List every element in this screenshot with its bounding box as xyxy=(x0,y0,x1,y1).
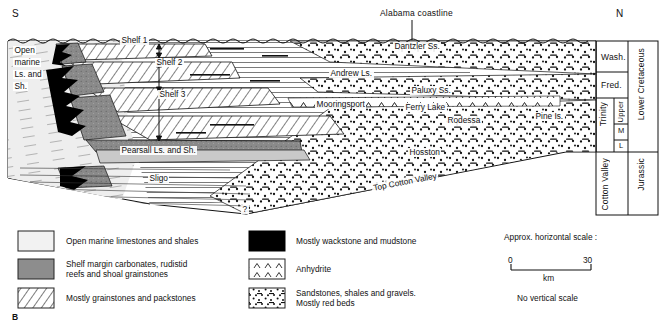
formation-label-dantzler: Dantzler Ss. xyxy=(393,42,441,51)
formation-label-rodessa: Rodessa xyxy=(446,116,482,125)
strat-unit-upper: Upper xyxy=(616,101,625,122)
query-mark: ? xyxy=(241,205,249,214)
open-marine-line-3: Ls. and xyxy=(13,70,43,79)
scale-min: 0 xyxy=(508,255,513,265)
legend-label-open-marine: Open marine limestones and shales xyxy=(66,236,198,246)
open-marine-line-1: Open xyxy=(13,46,36,55)
orientation-south: S xyxy=(12,8,19,19)
scale-unit: km xyxy=(543,273,554,283)
strat-unit-fred: Fred. xyxy=(601,80,622,90)
strat-system-jurassic: Jurassic xyxy=(636,158,646,191)
scale-note: No vertical scale xyxy=(517,293,578,303)
legend-swatch-shelf-margin xyxy=(18,259,54,279)
strat-unit-m: M xyxy=(618,126,624,135)
coastline-label: Alabama coastline xyxy=(380,8,453,18)
legend-label-shelf-margin: Shelf margin carbonates, rudistid reefs … xyxy=(66,259,187,279)
strat-unit-trinity: Trinity xyxy=(598,102,608,126)
formation-label-sligo: Sligo xyxy=(148,174,169,183)
formation-label-pearsall: Pearsall Ls. and Sh. xyxy=(120,146,197,155)
scale-title: Approx. horizontal scale : xyxy=(504,232,597,242)
legend-label-wackstone: Mostly wackstone and mudstone xyxy=(296,236,416,246)
legend-label-sandstone: Sandstones, shales and gravels. Mostly r… xyxy=(296,288,416,308)
open-marine-line-2: marine xyxy=(13,58,41,67)
formation-label-andrew: Andrew Ls. xyxy=(329,69,374,78)
legend-swatch-open-marine xyxy=(18,231,54,251)
legend-swatch-wackstone xyxy=(249,231,285,251)
strat-system-lower-cretaceous: Lower Cretaceous xyxy=(636,48,646,120)
legend-swatch-grainstone xyxy=(18,288,54,308)
shelf-label-1: Shelf 1 xyxy=(120,36,149,45)
legend-swatch-anhydrite xyxy=(249,259,285,279)
formation-label-ferry-lake: Ferry Lake xyxy=(404,103,447,112)
legend-swatch-sandstone xyxy=(249,288,285,308)
strat-unit-l: L xyxy=(619,141,623,150)
scale-bar xyxy=(511,264,591,270)
cross-section-diagram xyxy=(0,0,667,329)
scale-max: 30 xyxy=(583,255,592,265)
open-marine-line-4: Sh. xyxy=(13,82,28,91)
orientation-north: N xyxy=(616,8,623,19)
formation-label-hosston: Hosston xyxy=(408,148,441,157)
shelf-label-3: Shelf 3 xyxy=(158,90,187,99)
formation-label-mooringsport: Mooringsport xyxy=(315,100,366,109)
formation-label-paluxy: Paluxy Ss. xyxy=(410,86,452,95)
strat-unit-wash: Wash. xyxy=(601,52,626,62)
legend-label-anhydrite: Anhydrite xyxy=(296,264,331,274)
shelf-label-2: Shelf 2 xyxy=(155,58,184,67)
formation-label-pine-island: Pine Is. xyxy=(534,112,565,121)
legend-label-grainstone: Mostly grainstones and packstones xyxy=(66,293,196,303)
strat-unit-cotton-valley: Cotton Valley xyxy=(600,158,626,211)
panel-letter: B xyxy=(12,312,18,322)
